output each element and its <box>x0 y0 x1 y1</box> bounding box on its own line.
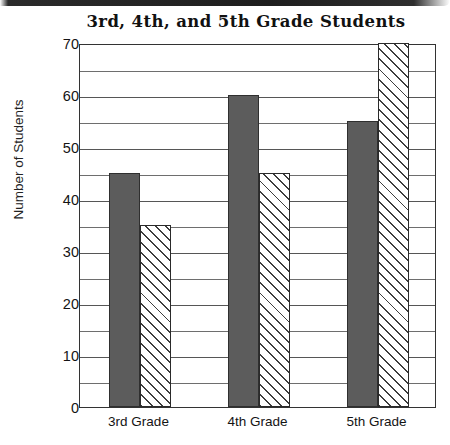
bar <box>228 95 259 407</box>
y-tick-label: 20 <box>19 296 79 312</box>
bar <box>347 121 378 407</box>
x-axis-tick-labels: 3rd Grade4th Grade5th Grade <box>79 414 436 440</box>
x-tick-label: 3rd Grade <box>108 414 169 429</box>
bar <box>140 225 171 407</box>
y-tick-label: 30 <box>19 244 79 260</box>
chart-title: 3rd, 4th, and 5th Grade Students <box>0 12 450 31</box>
y-tick-label: 0 <box>19 400 79 416</box>
y-tick-label: 70 <box>19 36 79 52</box>
bar <box>109 173 140 407</box>
y-tick-label: 60 <box>19 88 79 104</box>
x-tick-label: 4th Grade <box>227 414 287 429</box>
bar <box>378 43 409 407</box>
y-tick-label: 10 <box>19 348 79 364</box>
x-tick-label: 5th Grade <box>346 414 406 429</box>
scan-artifact-band <box>0 0 450 6</box>
plot-area <box>79 44 436 408</box>
bars-group <box>80 45 435 407</box>
y-tick-label: 40 <box>19 192 79 208</box>
bar <box>259 173 290 407</box>
y-tick-label: 50 <box>19 140 79 156</box>
